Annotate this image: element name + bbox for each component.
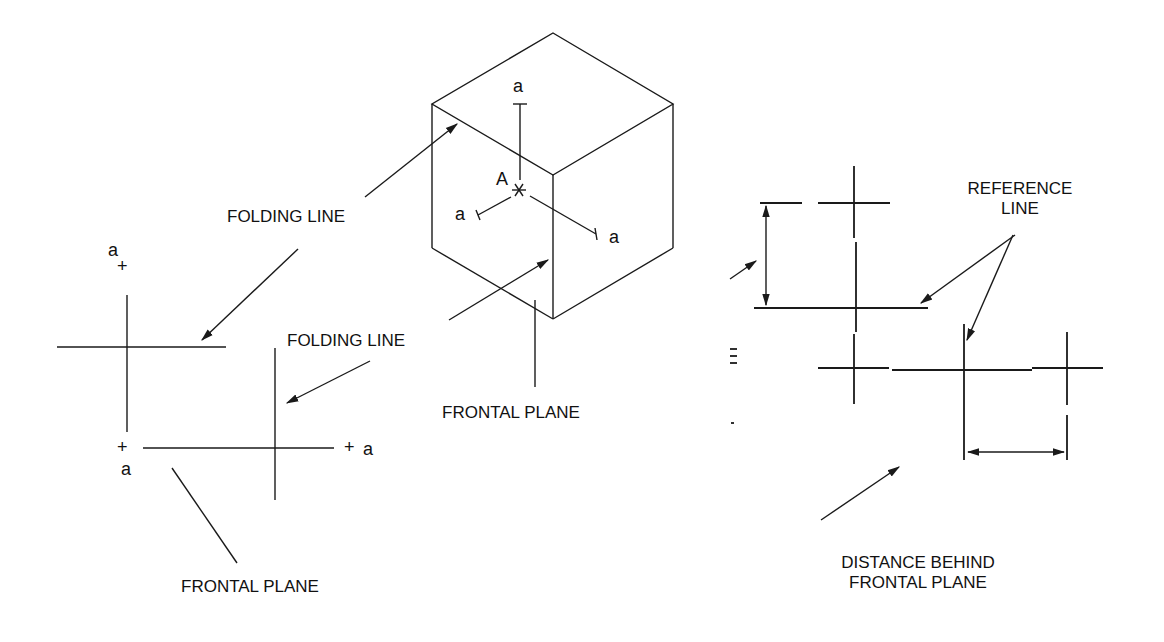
diagram-lines xyxy=(0,0,1164,642)
plus-marker-left-bottom: + xyxy=(117,438,128,456)
left-projection xyxy=(57,249,370,563)
label-frontal-plane-left: FRONTAL PLANE xyxy=(181,577,319,597)
folding-line-leader-mid xyxy=(449,260,548,320)
isometric-cube xyxy=(432,33,673,319)
plus-marker-left-right: + xyxy=(344,438,355,456)
point-label-cube-left: a xyxy=(455,205,465,223)
label-folding-line-top: FOLDING LINE xyxy=(227,207,345,227)
right-projection xyxy=(730,166,1103,520)
label-distance-behind-frontal-plane: DISTANCE BEHIND FRONTAL PLANE xyxy=(818,553,1018,593)
point-label-cube-center: A xyxy=(496,170,508,188)
point-label-cube-top: a xyxy=(513,77,523,95)
label-reference-line: REFERENCE LINE xyxy=(960,179,1080,219)
point-label-cube-right: a xyxy=(609,228,619,246)
point-label-left-bottom: a xyxy=(121,460,131,478)
point-label-left-right: a xyxy=(363,440,373,458)
orthographic-projection-diagram: a A a a a + + a + a FOLDING LINE FOLDING… xyxy=(0,0,1164,642)
label-frontal-plane-center: FRONTAL PLANE xyxy=(442,403,580,423)
plus-marker-left-top: + xyxy=(117,257,128,275)
label-folding-line-mid: FOLDING LINE xyxy=(287,331,405,351)
folding-line-leader-top xyxy=(365,124,457,197)
